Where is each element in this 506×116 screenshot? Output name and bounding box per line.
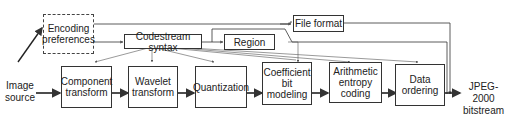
data-ordering-box: Data ordering — [395, 64, 445, 106]
arithmetic-entropy-coding-line1: Arithmetic — [333, 66, 377, 77]
encoding-preferences-box: Encoding preferences — [43, 14, 94, 54]
region-label: Region — [234, 37, 266, 48]
image-source-line1: Image — [2, 80, 38, 92]
file-format-label: File format — [295, 18, 342, 29]
wavelet-transform-line2: transform — [132, 87, 174, 98]
arithmetic-entropy-coding-line2: entropy — [339, 77, 372, 88]
coefficient-bit-modeling-line2: bit modeling — [263, 78, 311, 100]
wavelet-transform-box: Wavelet transform — [128, 66, 178, 108]
data-ordering-line1: Data — [409, 74, 430, 85]
codestream-syntax-box: Codestream syntax — [124, 34, 202, 49]
quantization-box: Quantization — [195, 66, 247, 108]
image-source-line2: source — [2, 92, 38, 104]
component-transform-line2: transform — [65, 87, 107, 98]
component-transform-line1: Component — [61, 76, 113, 87]
coefficient-bit-modeling-box: Coefficient bit modeling — [262, 62, 312, 105]
arithmetic-entropy-coding-line3: coding — [341, 88, 370, 99]
jpeg2000-bitstream-label: JPEG-2000 bitstream — [461, 81, 506, 116]
codestream-syntax-label: Codestream syntax — [125, 31, 201, 53]
jpeg2000-bitstream-line2: bitstream — [461, 105, 506, 116]
coefficient-bit-modeling-line1: Coefficient — [263, 67, 310, 78]
jpeg2000-bitstream-line1: JPEG-2000 — [461, 81, 506, 105]
arithmetic-entropy-coding-box: Arithmetic entropy coding — [329, 62, 382, 103]
encoding-preferences-line1: Encoding — [48, 23, 90, 34]
quantization-line1: Quantization — [193, 82, 249, 93]
region-box: Region — [224, 34, 275, 50]
file-format-box: File format — [293, 15, 344, 32]
wavelet-transform-line1: Wavelet — [135, 76, 171, 87]
encoding-preferences-line2: preferences — [42, 34, 95, 45]
data-ordering-line2: ordering — [402, 85, 439, 96]
image-source-label: Image source — [2, 80, 38, 104]
component-transform-box: Component transform — [61, 66, 112, 108]
